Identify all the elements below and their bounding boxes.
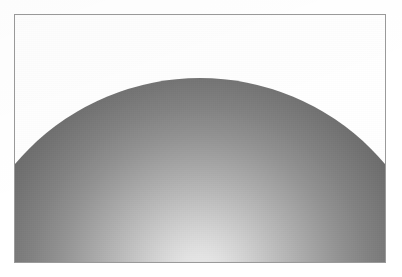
figure-canvas <box>0 0 402 277</box>
render-frame-border <box>14 14 386 263</box>
shaded-sphere <box>15 78 385 262</box>
render-viewport <box>15 15 385 262</box>
